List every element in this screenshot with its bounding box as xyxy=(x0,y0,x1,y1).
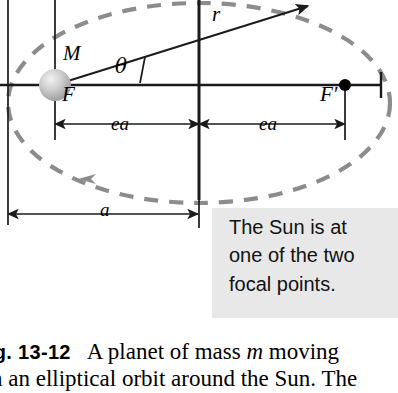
callout-line-3: focal points. xyxy=(229,270,398,298)
label-dimension-a: a xyxy=(100,200,110,219)
figure-13-12: M F F′ r θ ea ea a The Sun is at one of … xyxy=(0,0,398,393)
caption-figure-number: ig. 13-12 xyxy=(0,341,71,363)
caption-line-1: ig. 13-12A planet of mass m moving xyxy=(0,340,339,363)
callout-line-2: one of the two xyxy=(229,241,398,269)
label-focus-F-prime: F′ xyxy=(320,84,337,105)
figure-caption: ig. 13-12A planet of mass m moving n an … xyxy=(0,330,398,393)
sun-focal-point-callout: The Sun is at one of the two focal point… xyxy=(212,208,398,318)
label-sun-mass-M: M xyxy=(63,43,81,64)
callout-line-1: The Sun is at xyxy=(229,213,398,241)
caption-symbol-m: m xyxy=(246,339,263,364)
focus-point-dot xyxy=(339,79,351,91)
angle-theta-marker xyxy=(140,57,145,83)
label-focus-F: F xyxy=(62,84,75,105)
caption-text-lead: A planet of mass xyxy=(87,339,247,364)
label-radius-r: r xyxy=(212,4,220,25)
label-angle-theta: θ xyxy=(115,56,127,76)
caption-line-2: n an elliptical orbit around the Sun. Th… xyxy=(0,367,357,390)
label-dimension-ea-right: ea xyxy=(259,114,277,133)
label-dimension-ea-left: ea xyxy=(111,114,129,133)
radius-vector-r xyxy=(55,6,308,85)
orbit-diagram: M F F′ r θ ea ea a The Sun is at one of … xyxy=(0,0,398,330)
caption-text-tail: moving xyxy=(263,339,339,364)
